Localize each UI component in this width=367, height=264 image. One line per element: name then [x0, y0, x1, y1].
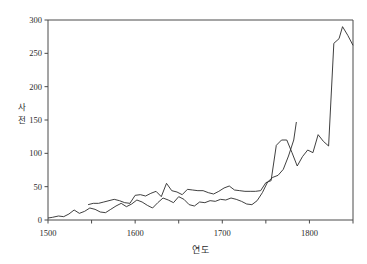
y-axis-tick-label: 100 [29, 148, 42, 158]
line-chart: 0501001502002503001500160017001800연도사전 [0, 0, 367, 264]
chart-figure: 0501001502002503001500160017001800연도사전 [0, 0, 367, 264]
data-line-series-1 [48, 122, 296, 218]
x-axis-tick-label: 1700 [214, 228, 231, 238]
y-axis-title-char: 사 [18, 102, 26, 112]
y-axis-tick-label: 200 [29, 82, 42, 92]
y-axis-tick-label: 300 [29, 15, 42, 25]
plot-frame [48, 20, 353, 220]
y-axis-tick-label: 150 [29, 115, 42, 125]
y-axis-title-char: 전 [18, 115, 26, 125]
x-axis-tick-label: 1800 [301, 228, 318, 238]
y-axis-tick-label: 250 [29, 48, 42, 58]
y-axis-tick-label: 50 [34, 182, 43, 192]
x-axis-tick-label: 1600 [127, 228, 144, 238]
y-axis-tick-label: 0 [38, 215, 42, 225]
x-axis-title: 연도 [192, 245, 210, 255]
x-axis-tick-label: 1500 [40, 228, 57, 238]
data-line-series-2 [88, 27, 353, 205]
